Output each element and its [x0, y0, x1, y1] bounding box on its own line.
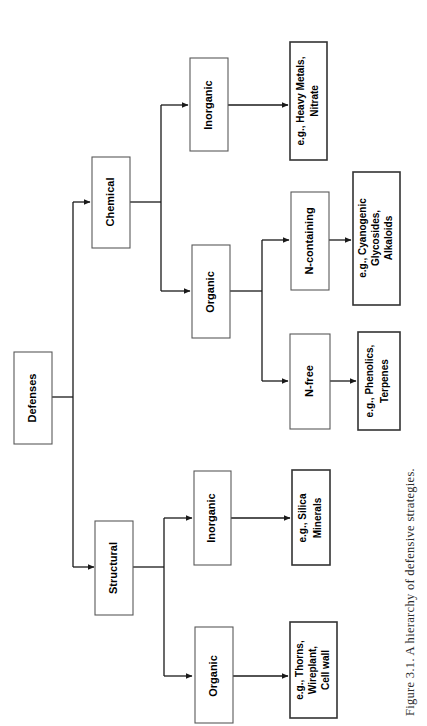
node-defenses[interactable]: Defenses [14, 352, 52, 444]
node-example-heavy-metals-line2: Nitrate [309, 85, 320, 117]
node-example-thorns[interactable]: e.g., Thorns, Wireplant, Cell wall [290, 622, 337, 718]
node-example-silica-line2: Minerals [312, 497, 323, 538]
node-structural-label: Structural [107, 542, 119, 594]
node-example-cyanogenic-line1: e.g., Cyanogenic [357, 198, 368, 278]
node-example-cyanogenic-line2: Glycosides, [370, 210, 381, 266]
node-structural-inorganic[interactable]: Inorganic [194, 471, 231, 565]
node-chemical-organic[interactable]: Organic [192, 245, 230, 338]
node-chemical[interactable]: Chemical [92, 157, 130, 248]
figure-caption: Figure 3.1. A hierarchy of defensive str… [403, 468, 417, 716]
node-chemical-inorganic-label: Inorganic [202, 80, 214, 130]
node-chemical-label: Chemical [104, 178, 116, 227]
node-example-cyanogenic[interactable]: e.g., Cyanogenic Glycosides, Alkaloids [353, 172, 400, 305]
figure-container: Defenses Chemical Structural Inorganic O… [0, 0, 427, 726]
node-chemical-inorganic[interactable]: Inorganic [190, 58, 228, 151]
node-example-phenolics-line2: Terpenes [379, 359, 390, 403]
node-example-thorns-line2: Wireplant, [307, 646, 318, 694]
node-example-silica[interactable]: e.g., Silica Minerals [292, 470, 330, 565]
hierarchy-diagram: Defenses Chemical Structural Inorganic O… [0, 0, 427, 726]
node-chemical-organic-label: Organic [204, 271, 216, 313]
node-example-thorns-line1: e.g., Thorns, [294, 640, 305, 700]
node-n-containing-label: N-containing [303, 207, 315, 274]
node-example-heavy-metals[interactable]: e.g., Heavy Metals, Nitrate [290, 42, 327, 160]
node-example-heavy-metals-line1: e.g., Heavy Metals, [295, 56, 306, 145]
node-n-free[interactable]: N-free [290, 334, 330, 429]
node-n-containing[interactable]: N-containing [291, 192, 329, 290]
node-structural[interactable]: Structural [95, 521, 133, 615]
node-structural-organic[interactable]: Organic [195, 627, 233, 723]
node-example-phenolics[interactable]: e.g., Phenolics, Terpenes [358, 332, 400, 430]
node-defenses-label: Defenses [26, 374, 38, 423]
node-structural-inorganic-label: Inorganic [205, 493, 217, 543]
node-example-cyanogenic-line3: Alkaloids [383, 215, 394, 260]
node-structural-organic-label: Organic [207, 655, 219, 697]
node-example-phenolics-line1: e.g., Phenolics, [364, 344, 375, 417]
node-example-silica-line1: e.g., Silica [297, 493, 308, 542]
node-n-free-label: N-free [303, 365, 315, 397]
node-example-thorns-line3: Cell wall [320, 650, 331, 690]
